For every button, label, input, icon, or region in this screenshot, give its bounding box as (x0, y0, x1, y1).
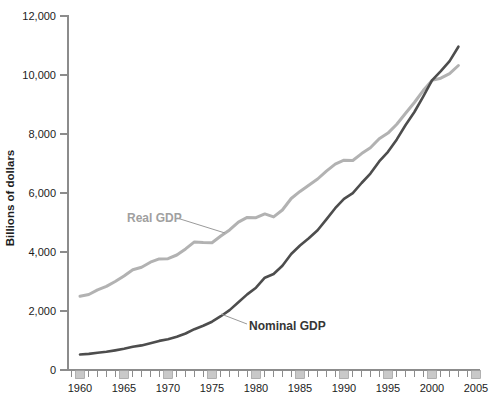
x-tick-label: 1975 (200, 382, 224, 394)
x-tick-label: 2000 (420, 382, 444, 394)
x-axis-marker-box (208, 371, 217, 379)
x-axis-marker-box (164, 371, 173, 379)
x-axis-marker-box (428, 371, 437, 379)
series-lines (80, 47, 458, 355)
x-axis-marker-box (252, 371, 261, 379)
x-axis-marker-box (472, 371, 481, 379)
x-tick-label: 1960 (68, 382, 92, 394)
x-axis: 1960196519701975198019851990199520002005 (68, 370, 488, 394)
x-tick-label: 2005 (464, 382, 488, 394)
y-tick-label: 2,000 (28, 305, 56, 317)
y-tick-label: 8,000 (28, 128, 56, 140)
series-line-real-gdp (80, 66, 458, 297)
x-tick-label: 1990 (332, 382, 356, 394)
x-tick-label: 1985 (288, 382, 312, 394)
gdp-chart-figure: 02,0004,0006,0008,00010,00012,000 196019… (0, 0, 490, 413)
x-axis-marker-box (340, 371, 349, 379)
y-tick-label: 12,000 (22, 10, 56, 22)
y-axis: 02,0004,0006,0008,00010,00012,000 (22, 10, 68, 376)
x-tick-label: 1995 (376, 382, 400, 394)
y-tick-label: 6,000 (28, 187, 56, 199)
real-gdp-label: Real GDP (127, 211, 182, 225)
x-axis-marker-box (76, 371, 85, 379)
x-axis-marker-box (120, 371, 129, 379)
real-gdp-leader-line (177, 218, 225, 233)
y-tick-label: 0 (50, 364, 56, 376)
x-tick-label: 1980 (244, 382, 268, 394)
series-line-nominal-gdp (80, 47, 458, 355)
nominal-gdp-leader-line (221, 314, 247, 324)
y-tick-label: 10,000 (22, 69, 56, 81)
x-tick-label: 1965 (112, 382, 136, 394)
gdp-line-chart: 02,0004,0006,0008,00010,00012,000 196019… (0, 0, 490, 413)
nominal-gdp-label: Nominal GDP (249, 319, 326, 333)
x-axis-marker-box (296, 371, 305, 379)
y-tick-label: 4,000 (28, 246, 56, 258)
x-tick-label: 1970 (156, 382, 180, 394)
y-axis-title: Billions of dollars (4, 150, 16, 246)
x-axis-marker-box (384, 371, 393, 379)
